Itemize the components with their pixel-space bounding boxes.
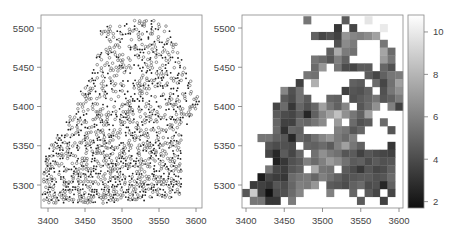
point-open bbox=[102, 139, 105, 142]
point-open bbox=[86, 202, 89, 205]
point-filled bbox=[125, 117, 127, 119]
point-open bbox=[162, 155, 165, 158]
point-filled bbox=[152, 83, 154, 85]
heatmap-cell bbox=[388, 150, 396, 158]
heatmap-cell bbox=[280, 110, 288, 118]
point-filled bbox=[106, 202, 108, 204]
point-open bbox=[189, 80, 192, 83]
point-filled bbox=[155, 114, 157, 116]
point-filled bbox=[172, 157, 174, 159]
heatmap-cell bbox=[372, 181, 380, 189]
point-open bbox=[165, 167, 168, 170]
point-filled bbox=[136, 181, 138, 183]
heatmap-cell bbox=[372, 32, 380, 40]
point-filled bbox=[175, 183, 177, 185]
point-filled bbox=[132, 98, 134, 100]
point-open bbox=[79, 103, 82, 106]
point-filled bbox=[100, 54, 102, 56]
point-filled bbox=[148, 38, 150, 40]
point-open bbox=[115, 66, 118, 69]
point-filled bbox=[112, 197, 114, 199]
point-filled bbox=[77, 145, 79, 147]
point-filled bbox=[140, 135, 142, 137]
point-filled bbox=[152, 51, 154, 53]
point-filled bbox=[126, 189, 128, 191]
point-filled bbox=[141, 59, 143, 61]
heatmap-cell bbox=[365, 95, 373, 103]
point-filled bbox=[129, 72, 131, 74]
point-filled bbox=[168, 98, 170, 100]
point-filled bbox=[119, 168, 121, 170]
point-open bbox=[97, 183, 100, 186]
point-open bbox=[160, 152, 163, 155]
point-open bbox=[89, 175, 92, 178]
heatmap-cell bbox=[357, 165, 365, 173]
point-open bbox=[131, 197, 134, 200]
point-filled bbox=[125, 132, 127, 134]
point-filled bbox=[72, 202, 74, 204]
heatmap-cell bbox=[357, 79, 365, 87]
point-filled bbox=[171, 116, 173, 118]
heatmap-cell bbox=[288, 126, 296, 134]
scatter-y-axis: 53005350540054505500 bbox=[13, 23, 41, 191]
point-open bbox=[144, 160, 147, 163]
point-filled bbox=[160, 118, 162, 120]
point-open bbox=[134, 139, 137, 142]
heatmap-cell bbox=[280, 189, 288, 197]
point-filled bbox=[156, 101, 158, 103]
heatmap-cell bbox=[349, 158, 357, 166]
point-filled bbox=[112, 184, 114, 186]
point-filled bbox=[139, 67, 141, 69]
point-filled bbox=[60, 178, 62, 180]
point-filled bbox=[137, 98, 139, 100]
point-filled bbox=[71, 169, 73, 171]
point-filled bbox=[108, 136, 110, 138]
point-open bbox=[157, 113, 160, 116]
point-filled bbox=[159, 41, 161, 43]
heatmap-cell bbox=[319, 142, 327, 150]
point-filled bbox=[62, 194, 64, 196]
point-filled bbox=[141, 121, 143, 123]
heatmap-cell bbox=[326, 150, 334, 158]
point-open bbox=[117, 70, 120, 73]
point-filled bbox=[114, 178, 116, 180]
point-filled bbox=[161, 194, 163, 196]
point-filled bbox=[164, 191, 166, 193]
point-filled bbox=[154, 171, 156, 173]
point-filled bbox=[48, 155, 50, 157]
point-open bbox=[169, 127, 172, 130]
point-open bbox=[104, 173, 107, 176]
point-open bbox=[139, 178, 142, 181]
heatmap-cell bbox=[326, 181, 334, 189]
point-filled bbox=[126, 23, 128, 25]
point-filled bbox=[166, 119, 168, 121]
heatmap-cell bbox=[342, 181, 350, 189]
heatmap-cell bbox=[334, 158, 342, 166]
point-filled bbox=[59, 149, 61, 151]
heatmap-cell bbox=[311, 142, 319, 150]
point-open bbox=[175, 121, 178, 124]
point-filled bbox=[141, 49, 143, 51]
heatmap-cell bbox=[303, 173, 311, 181]
point-open bbox=[157, 38, 160, 41]
point-filled bbox=[120, 171, 122, 173]
heatmap-cell bbox=[349, 40, 357, 48]
heatmap-cell bbox=[349, 126, 357, 134]
point-filled bbox=[185, 92, 187, 94]
point-open bbox=[63, 141, 66, 144]
heatmap-cell bbox=[380, 118, 388, 126]
point-open bbox=[48, 178, 51, 181]
point-filled bbox=[50, 186, 52, 188]
heatmap-cell bbox=[311, 32, 319, 40]
point-filled bbox=[45, 156, 47, 158]
point-filled bbox=[151, 26, 153, 28]
point-filled bbox=[107, 73, 109, 75]
heatmap-cell bbox=[311, 71, 319, 79]
point-filled bbox=[146, 72, 148, 74]
point-filled bbox=[115, 163, 117, 165]
point-filled bbox=[124, 178, 126, 180]
heatmap-cell bbox=[334, 40, 342, 48]
point-open bbox=[87, 109, 90, 112]
point-filled bbox=[126, 126, 128, 128]
point-filled bbox=[139, 191, 141, 193]
